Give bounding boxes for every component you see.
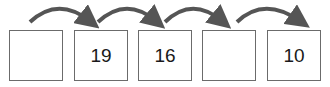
sequence-box-2: 19 bbox=[74, 30, 128, 81]
arrow-2 bbox=[98, 9, 156, 22]
arrow-4 bbox=[237, 9, 300, 22]
arrow-3 bbox=[165, 9, 222, 22]
sequence-box-4[interactable] bbox=[202, 30, 256, 81]
sequence-box-5: 10 bbox=[267, 30, 321, 81]
arrow-1 bbox=[30, 9, 90, 22]
sequence-box-3: 16 bbox=[138, 30, 192, 81]
sequence-box-1[interactable] bbox=[9, 30, 63, 81]
